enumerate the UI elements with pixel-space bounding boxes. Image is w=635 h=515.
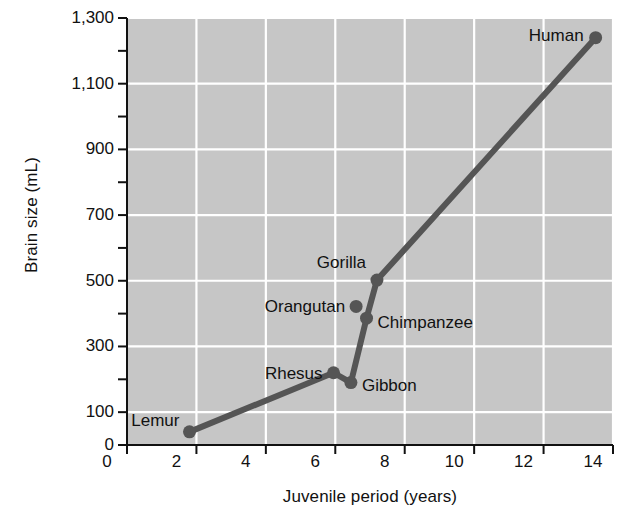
x-tick-label-text: 12: [504, 452, 544, 472]
y-tick-label: 900: [86, 139, 114, 159]
point-label-chimpanzee: Chimpanzee: [378, 314, 473, 331]
point-label-gorilla: Gorilla: [317, 254, 366, 271]
x-tick-label-text: 4: [226, 452, 266, 472]
point-label-rhesus: Rhesus: [265, 364, 323, 381]
brain-size-chart: Brain size (mL) Juvenile period (years) …: [0, 0, 635, 515]
plot-area: LemurRhesusGibbonOrangutanChimpanzeeGori…: [127, 18, 613, 445]
x-tick-label-text: 0: [87, 452, 127, 472]
y-tick-label: 500: [86, 271, 114, 291]
x-tick-label: 6: [295, 452, 335, 472]
data-line: [189, 38, 595, 432]
x-tick-label: 12: [504, 452, 544, 472]
point-label-gibbon: Gibbon: [362, 376, 417, 393]
x-tick-label-text: 14: [573, 452, 613, 472]
x-tick-label-text: 10: [434, 452, 474, 472]
x-tick-label: 8: [365, 452, 405, 472]
y-tick-label: 1,300: [71, 8, 114, 28]
x-tick-label: 10: [434, 452, 474, 472]
y-tick-label: 300: [86, 336, 114, 356]
y-tick-label: 100: [86, 402, 114, 422]
x-tick-label: 4: [226, 452, 266, 472]
y-tick-label: 1,100: [71, 74, 114, 94]
x-tick-label: 14: [573, 452, 613, 472]
x-tick-label-text: 8: [365, 452, 405, 472]
x-tick-label-text: 6: [295, 452, 335, 472]
point-label-human: Human: [529, 26, 584, 43]
x-axis-title: Juvenile period (years): [127, 487, 613, 507]
y-tick-label: 700: [86, 205, 114, 225]
y-axis-title: Brain size (mL): [22, 95, 42, 335]
point-label-orangutan: Orangutan: [265, 298, 345, 315]
point-label-lemur: Lemur: [131, 411, 179, 428]
x-tick-label-text: 2: [156, 452, 196, 472]
x-tick-label: 2: [156, 452, 196, 472]
x-tick-label: 0: [87, 452, 127, 472]
